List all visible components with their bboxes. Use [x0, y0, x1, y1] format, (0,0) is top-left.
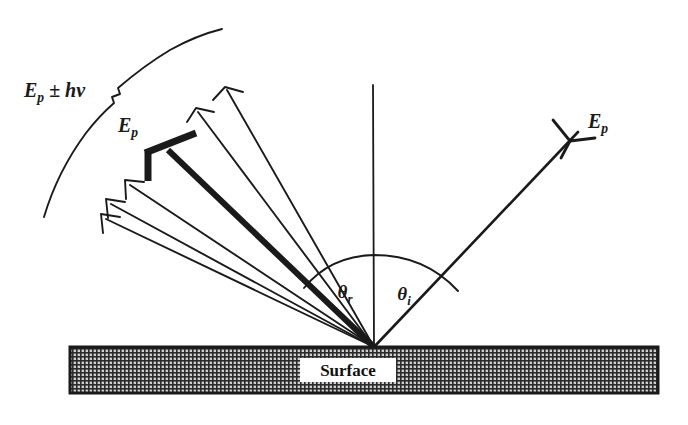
- normal-line-stroke: [373, 85, 374, 347]
- label-theta-r-sub: r: [347, 291, 353, 306]
- scattering-diagram-figure: Surface: [0, 0, 688, 425]
- label-theta-i-text: θi: [397, 283, 411, 308]
- label-theta-incident: θi: [397, 283, 411, 308]
- label-theta-i-sub: i: [407, 293, 411, 308]
- label-ep-left-sub: p: [130, 125, 138, 140]
- label-ephv-sub: p: [36, 90, 44, 105]
- surface-label: Surface: [320, 361, 376, 380]
- surface-band: Surface: [70, 347, 658, 393]
- label-ephv-rest: ± hν: [44, 79, 86, 101]
- label-incident-energy: Ep: [587, 110, 608, 136]
- diagram-canvas: Surface: [0, 0, 688, 425]
- label-reflected-energy: Ep: [117, 114, 138, 140]
- label-theta-i-glyph: θ: [397, 283, 407, 304]
- specular-ray-bold: [145, 133, 374, 347]
- label-reflected-energy-text: Ep: [117, 114, 138, 140]
- scattered-ray-3-arrowhead: [125, 180, 144, 199]
- scattered-ray-3-shaft: [130, 185, 374, 347]
- label-ep-right-E: E: [587, 110, 601, 132]
- label-ephv-E: E: [23, 79, 37, 101]
- label-incident-energy-text: Ep: [587, 110, 608, 136]
- energy-envelope-arc: [44, 29, 222, 217]
- scattered-ray-5: [101, 214, 374, 347]
- scattered-ray-4-shaft: [111, 204, 374, 347]
- normal-line: [373, 85, 374, 347]
- label-scattered-energy-text: Ep ± hν: [23, 79, 86, 105]
- scattered-ray-1-shaft: [227, 90, 374, 347]
- scattered-ray-2-shaft: [198, 112, 374, 347]
- incident-ray: [374, 120, 595, 347]
- label-ep-left-E: E: [117, 114, 131, 136]
- label-scattered-energy: Ep ± hν: [23, 79, 86, 105]
- scattered-ray-5-shaft: [106, 219, 374, 347]
- label-ep-right-sub: p: [600, 121, 608, 136]
- scattered-ray-2: [187, 108, 374, 347]
- label-theta-r-glyph: θ: [338, 281, 348, 302]
- energy-envelope-path: [44, 29, 222, 217]
- incident-ray-shaft: [374, 132, 578, 347]
- specular-ray-shaft: [168, 150, 374, 347]
